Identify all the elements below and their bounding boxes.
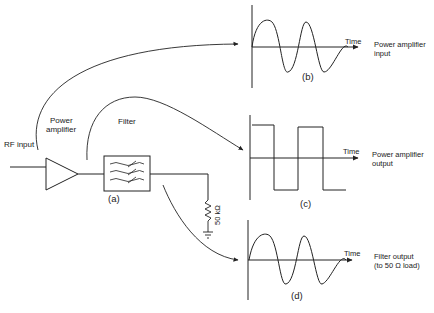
filter-label: Filter (118, 117, 136, 126)
resistor-symbol (205, 200, 211, 232)
resistor-value-label: 50 kΩ (213, 205, 222, 225)
filter-output-wire (150, 174, 208, 200)
filter-box (104, 156, 150, 191)
waveform-d-plot (248, 220, 352, 300)
waveform-b-axis-label: Time (345, 37, 361, 46)
waveform-b-caption: (b) (302, 71, 314, 82)
circuit-caption: (a) (108, 193, 120, 204)
diagram-canvas (0, 0, 434, 313)
waveform-c-description-line1: Power amplifier (372, 150, 424, 159)
waveform-b-description-line2: input (374, 49, 390, 58)
amplifier-label-line2: amplifier (46, 125, 76, 134)
amplifier-label-line1: Power (50, 116, 73, 125)
power-amplifier-triangle (46, 158, 78, 190)
waveform-c-description-line2: output (372, 159, 393, 168)
waveform-d-axis-label: Time (344, 249, 360, 258)
rf-input-label: RF input (4, 140, 34, 149)
waveform-c-axis-label: Time (343, 147, 359, 156)
waveform-c-plot (250, 115, 358, 200)
arrow-to-waveform-d (163, 185, 238, 260)
waveform-d-description-line1: Filter output (374, 252, 414, 261)
ground-symbol (203, 232, 213, 238)
arrow-to-waveform-c (87, 97, 243, 160)
waveform-d-caption: (d) (291, 290, 303, 301)
waveform-c-caption: (c) (300, 198, 311, 209)
waveform-b-description-line1: Power amplifier (374, 40, 426, 49)
waveform-d-description-line2: (to 50 Ω load) (374, 261, 420, 270)
